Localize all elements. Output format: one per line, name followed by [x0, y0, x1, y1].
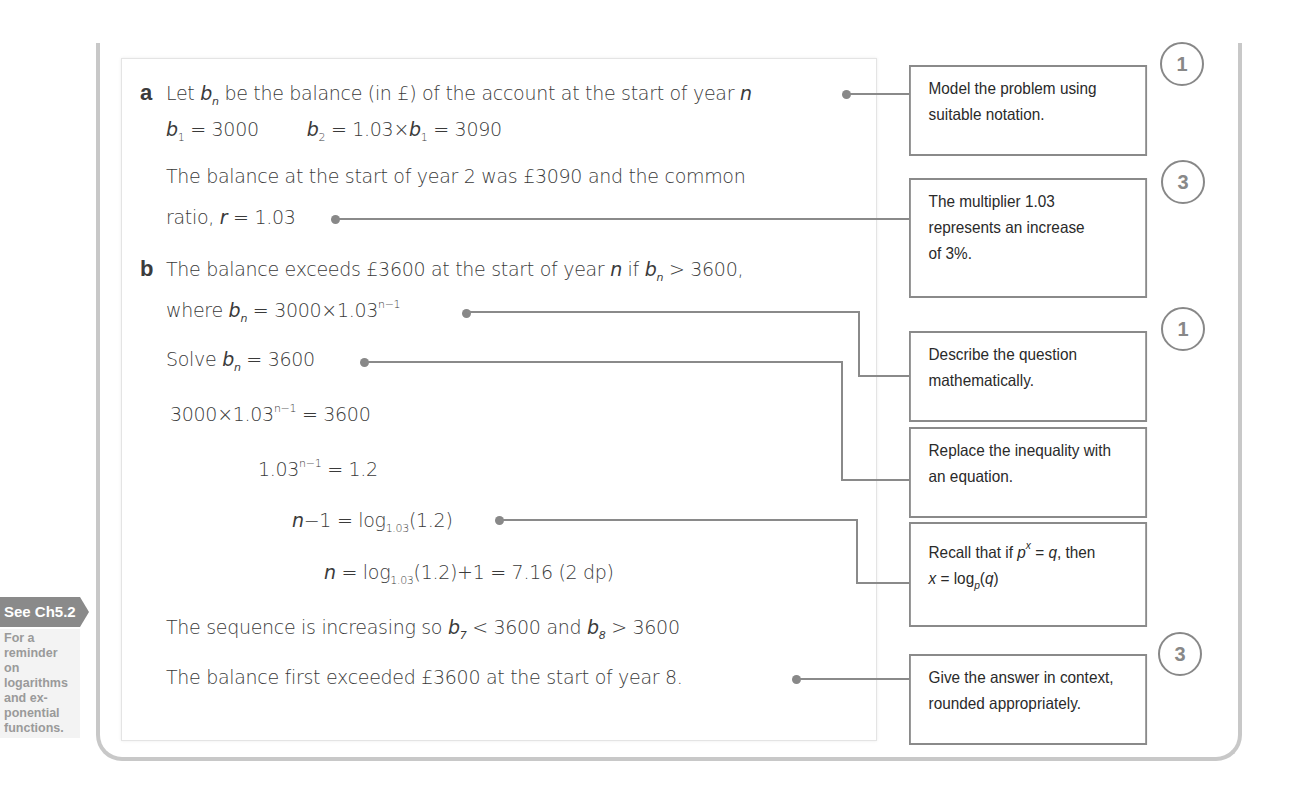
note-answer-context: Give the answer in context,rounded appro… [909, 654, 1147, 745]
connector-1 [847, 93, 910, 95]
part-a-line-4: ratio, r = 1.03 [166, 206, 296, 228]
connector-5b [856, 519, 858, 584]
sidebar-reminder-note: For a reminder on logarithms and ex- pon… [0, 629, 80, 738]
part-b-line-4: 3000×1.03n−1 = 3600 [170, 402, 370, 425]
part-b-line-3: Solve bn = 3600 [166, 348, 315, 374]
badge-3: 3 [1161, 160, 1205, 204]
connector-3b [858, 311, 860, 377]
part-a-line-1: Let bn be the balance (in £) of the acco… [166, 82, 752, 108]
part-b-line-1: The balance exceeds £3600 at the start o… [166, 258, 743, 284]
part-a-line-3: The balance at the start of year 2 was £… [166, 165, 745, 187]
badge-1b: 1 [1161, 307, 1205, 351]
note-multiplier: The multiplier 1.03represents an increas… [909, 178, 1147, 298]
note-recall-log: Recall that if px = q, then x = logp(q) [909, 522, 1147, 627]
part-b-label: b [140, 256, 153, 282]
part-b-line-9: The balance first exceeded £3600 at the … [166, 666, 683, 688]
connector-5a [500, 519, 857, 521]
connector-2 [336, 218, 910, 220]
note-model-notation: Model the problem usingsuitable notation… [909, 65, 1147, 156]
badge-1: 1 [1160, 42, 1204, 86]
connector-6 [797, 678, 910, 680]
part-a-label: a [140, 80, 152, 106]
part-a-line-2: b1 = 3000b2 = 1.03×b1 = 3090 [166, 118, 502, 144]
badge-3b: 3 [1158, 632, 1202, 676]
connector-4a [365, 361, 842, 363]
part-b-line-8: The sequence is increasing so b7 < 3600 … [166, 616, 680, 642]
note-describe-mathematically: Describe the questionmathematically. [909, 331, 1147, 422]
connector-4b [841, 361, 843, 481]
note-replace-inequality: Replace the inequality withan equation. [909, 427, 1147, 518]
connector-4c [841, 479, 910, 481]
part-b-line-6: n−1 = log1.03(1.2) [292, 509, 453, 535]
connector-3a [467, 311, 859, 313]
connector-5c [856, 582, 910, 584]
part-b-line-2: where bn = 3000×1.03n−1 [166, 298, 400, 325]
part-b-line-7: n = log1.03(1.2)+1 = 7.16 (2 dp) [324, 561, 614, 587]
connector-3c [858, 375, 910, 377]
part-b-line-5: 1.03n−1 = 1.2 [258, 457, 378, 480]
see-chapter-tab[interactable]: See Ch5.2 [0, 597, 80, 627]
